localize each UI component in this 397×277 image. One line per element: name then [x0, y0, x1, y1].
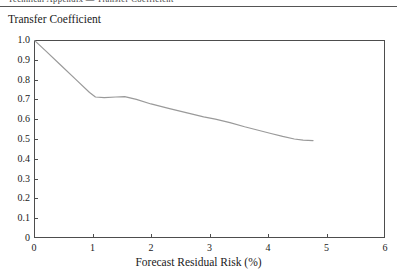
x-tick-label: 4 — [256, 243, 280, 253]
y-tick-label: 0.3 — [2, 174, 30, 184]
running-head-text: Technical Appendix — Transfer Coefficien… — [8, 0, 174, 4]
y-tick-label: 0.6 — [2, 114, 30, 124]
y-tick-label: 0 — [2, 233, 30, 243]
y-tick-label: 0.1 — [2, 213, 30, 223]
x-tick-label: 1 — [81, 243, 105, 253]
x-tick-label: 3 — [198, 243, 222, 253]
y-tick-label: 1.0 — [2, 35, 30, 45]
transfer-coefficient-line — [34, 40, 313, 141]
y-tick-label: 0.9 — [2, 55, 30, 65]
y-tick-label: 0.2 — [2, 193, 30, 203]
x-axis-title: Forecast Residual Risk (%) — [0, 256, 397, 268]
plot-area — [34, 40, 385, 238]
x-tick-label: 0 — [22, 243, 46, 253]
x-tick-label: 5 — [315, 243, 339, 253]
y-tick-label: 0.7 — [2, 94, 30, 104]
y-tick-label: 0.4 — [2, 154, 30, 164]
x-tick-label: 6 — [373, 243, 397, 253]
header-divider — [0, 6, 397, 7]
y-tick-label: 0.8 — [2, 75, 30, 85]
y-axis-tick-labels: 00.10.20.30.40.50.60.70.80.91.0 — [0, 0, 30, 277]
x-tick-label: 2 — [139, 243, 163, 253]
y-tick-label: 0.5 — [2, 134, 30, 144]
